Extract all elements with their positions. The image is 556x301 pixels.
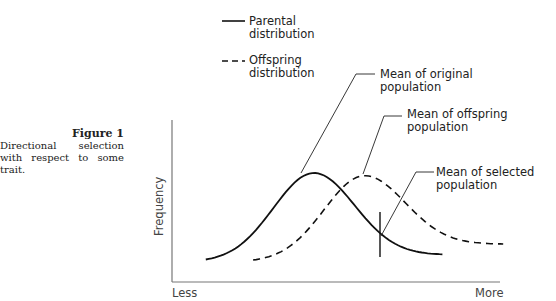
original-mean-label-1: Mean of original: [380, 67, 473, 81]
offspring-mean-label-2: population: [407, 120, 468, 134]
offspring-mean-label-1: Mean of offspring: [407, 107, 508, 121]
y-axis-label: Frequency: [152, 176, 166, 236]
legend-parental-label-2: distribution: [249, 27, 315, 41]
selected-mean-label-1: Mean of selected: [436, 165, 534, 179]
diagram: Parental distribution Offspring distribu…: [0, 0, 556, 301]
selected-mean-label-2: population: [436, 178, 497, 192]
legend-parental-label-1: Parental: [249, 14, 296, 28]
parental-distribution-curve: [206, 173, 443, 260]
legend-offspring-label-2: distribution: [249, 66, 315, 80]
offspring-mean-leader: [363, 116, 402, 174]
original-mean-leader: [301, 74, 375, 173]
original-mean-label-2: population: [380, 80, 441, 94]
legend-offspring-label-1: Offspring: [249, 53, 302, 67]
x-axis-less-label: Less: [172, 286, 197, 300]
x-axis-more-label: More: [475, 286, 504, 300]
